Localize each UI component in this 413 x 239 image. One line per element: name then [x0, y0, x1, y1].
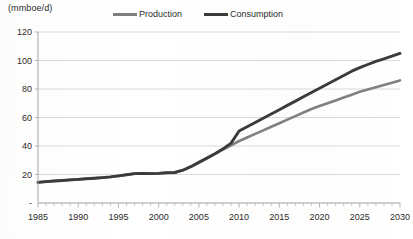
y-tick-label-80: 80	[22, 84, 32, 94]
y-tick-label--: -	[29, 198, 32, 208]
x-tick-label-2000: 2000	[149, 212, 169, 222]
x-tick-label-1985: 1985	[28, 212, 48, 222]
x-tick-label-2005: 2005	[189, 212, 209, 222]
x-tick-label-2020: 2020	[310, 212, 330, 222]
y-axis-ticks: -20406080100120	[17, 27, 38, 208]
x-tick-label-2030: 2030	[390, 212, 410, 222]
y-tick-label-60: 60	[22, 113, 32, 123]
x-tick-label-1990: 1990	[68, 212, 88, 222]
data-series	[38, 53, 400, 182]
y-tick-label-100: 100	[17, 56, 32, 66]
y-tick-label-20: 20	[22, 170, 32, 180]
x-tick-label-2015: 2015	[269, 212, 289, 222]
chart-container: (mmboe/d) Production Consumption -204060…	[0, 0, 413, 239]
chart-plot-area: -20406080100120 198519901995200020052010…	[0, 0, 413, 239]
series-line-production	[38, 80, 400, 182]
x-tick-label-1995: 1995	[108, 212, 128, 222]
series-line-consumption	[38, 53, 400, 182]
y-tick-label-40: 40	[22, 141, 32, 151]
x-axis-ticks: 1985199019952000200520102015202020252030	[28, 203, 410, 222]
x-tick-label-2025: 2025	[350, 212, 370, 222]
x-tick-label-2010: 2010	[229, 212, 249, 222]
y-tick-label-120: 120	[17, 27, 32, 37]
